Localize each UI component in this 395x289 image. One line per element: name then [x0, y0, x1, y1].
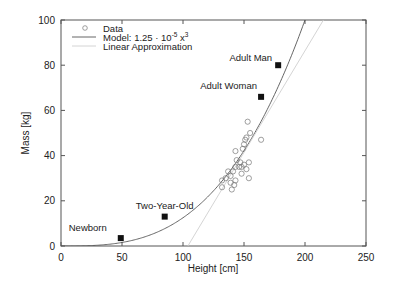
data-point	[233, 178, 238, 183]
linear-approximation-line	[188, 0, 366, 246]
y-tick-label: 20	[44, 195, 56, 206]
y-tick-label: 0	[49, 241, 55, 252]
x-tick-label: 150	[236, 252, 253, 263]
plot-border	[61, 20, 366, 246]
legend-data-marker	[83, 26, 88, 31]
reference-label: Newborn	[69, 222, 107, 233]
data-point	[246, 160, 251, 165]
reference-marker	[118, 235, 124, 241]
y-tick-label: 60	[44, 105, 56, 116]
x-tick-label: 50	[116, 252, 128, 263]
reference-points: NewbornTwo-Year-OldAdult WomanAdult Man	[69, 52, 281, 241]
y-tick-label: 100	[38, 15, 55, 26]
legend-linear-label: Linear Approximation	[103, 41, 192, 52]
x-tick-label: 0	[58, 252, 64, 263]
reference-label: Adult Woman	[200, 80, 257, 91]
data-point	[246, 176, 251, 181]
x-tick-label: 100	[175, 252, 192, 263]
reference-marker	[258, 94, 264, 100]
data-point	[240, 146, 245, 151]
y-tick-label: 80	[44, 60, 56, 71]
x-tick-label: 250	[358, 252, 375, 263]
chart: NewbornTwo-Year-OldAdult WomanAdult Man …	[0, 0, 395, 289]
data-point	[229, 187, 234, 192]
y-axis-label: Mass [kg]	[20, 111, 31, 154]
reference-label: Two-Year-Old	[136, 200, 194, 211]
reference-label: Adult Man	[229, 52, 272, 63]
legend: DataModel: 1.25 · 10-5 x3Linear Approxim…	[72, 23, 192, 52]
x-tick-label: 200	[297, 252, 314, 263]
data-point	[245, 119, 250, 124]
data-point	[248, 130, 253, 135]
data-point	[239, 171, 244, 176]
plot-area	[61, 20, 366, 246]
data-point	[233, 148, 238, 153]
reference-marker	[162, 214, 168, 220]
reference-marker	[275, 62, 281, 68]
x-axis-label: Height [cm]	[188, 263, 239, 274]
y-tick-label: 40	[44, 150, 56, 161]
data-point	[258, 137, 263, 142]
